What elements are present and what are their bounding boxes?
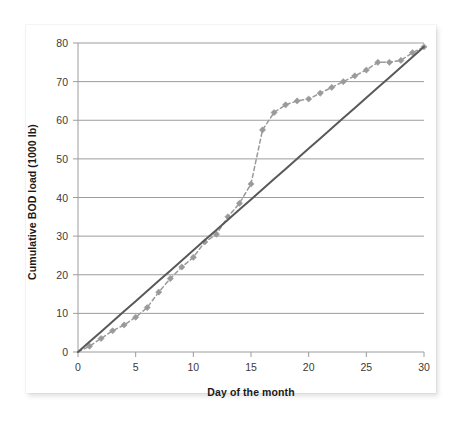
plot-area xyxy=(0,0,463,427)
data-point-marker xyxy=(306,96,312,102)
data-point-marker xyxy=(248,181,254,187)
data-point-marker xyxy=(340,79,346,85)
data-point-marker xyxy=(317,90,323,96)
data-point-marker xyxy=(329,84,335,90)
data-point-marker xyxy=(294,98,300,104)
series-line-1 xyxy=(78,47,424,352)
gridlines xyxy=(78,43,424,313)
bod-load-chart: Cumulative BOD load (1000 lb) Day of the… xyxy=(0,0,463,427)
data-point-marker xyxy=(352,73,358,79)
data-point-marker xyxy=(386,59,392,65)
